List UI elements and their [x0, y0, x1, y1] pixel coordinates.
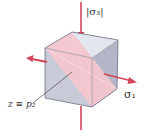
sigma1-label: σ₁ — [124, 88, 136, 101]
sigma1-left-arrowhead-icon — [26, 55, 34, 62]
sigma1-right-arrowhead-icon — [128, 77, 138, 84]
cube-svg — [0, 0, 144, 137]
stress-cube-diagram: |σ₃| σ₁ z ≡ p₂ — [0, 0, 144, 137]
sigma3-label: |σ₃| — [86, 6, 104, 17]
plane-label: z ≡ p₂ — [8, 99, 35, 109]
